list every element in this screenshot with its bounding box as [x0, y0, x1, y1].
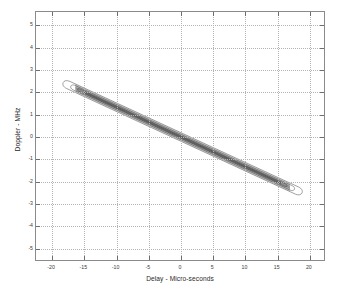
grid-line-vertical: [181, 12, 182, 260]
x-axis-tick-label: -20: [47, 263, 55, 271]
y-axis-tick-mark: [36, 48, 40, 49]
grid-line-vertical: [310, 12, 311, 260]
y-axis-tick-label: 1: [30, 110, 33, 118]
x-axis-tick-label: 5: [211, 263, 214, 271]
ridge-contour-line: [75, 85, 290, 184]
ridge-contour-line: [75, 89, 290, 188]
x-axis-tick-mark: [278, 256, 279, 260]
x-axis-tick-mark: [117, 12, 118, 16]
y-axis-tick-mark: [320, 48, 324, 49]
ridge-contour-line: [75, 84, 290, 183]
grid-line-horizontal: [36, 182, 324, 183]
grid-line-vertical: [117, 12, 118, 260]
grid-line-horizontal: [36, 137, 324, 138]
x-axis-tick-label: -15: [80, 263, 88, 271]
y-axis-tick-label: -5: [28, 244, 33, 252]
x-axis-tick-mark: [310, 12, 311, 16]
y-axis-tick-label: 0: [30, 132, 33, 140]
plot-area: [35, 11, 325, 261]
x-axis-tick-mark: [181, 256, 182, 260]
y-axis-tick-mark: [36, 70, 40, 71]
x-axis-tick-mark: [245, 12, 246, 16]
grid-line-vertical: [52, 12, 53, 260]
y-axis-tick-mark: [320, 92, 324, 93]
x-axis-tick-mark: [213, 256, 214, 260]
y-axis-tick-mark: [36, 182, 40, 183]
y-axis-tick-mark: [320, 159, 324, 160]
y-axis-tick-mark: [320, 182, 324, 183]
y-axis-tick-mark: [320, 25, 324, 26]
grid-line-horizontal: [36, 25, 324, 26]
x-axis-tick-mark: [52, 12, 53, 16]
ridge-contour-line: [75, 91, 290, 190]
grid-line-vertical: [84, 12, 85, 260]
ridge-contour-line: [75, 92, 290, 191]
x-axis-tick-mark: [278, 12, 279, 16]
x-axis-tick-mark: [52, 256, 53, 260]
y-axis-tick-mark: [36, 159, 40, 160]
x-axis-tick-mark: [213, 12, 214, 16]
y-axis-tick-label: -4: [28, 221, 33, 229]
x-axis-tick-label: 15: [274, 263, 280, 271]
y-axis-tick-mark: [36, 92, 40, 93]
x-axis-tick-label: 20: [306, 263, 312, 271]
x-axis-tick-mark: [310, 256, 311, 260]
grid-line-vertical: [213, 12, 214, 260]
y-axis-tick-label: -1: [28, 154, 33, 162]
x-axis-tick-mark: [245, 256, 246, 260]
y-axis-tick-mark: [320, 249, 324, 250]
x-axis-tick-label: -5: [145, 263, 150, 271]
grid-line-horizontal: [36, 48, 324, 49]
y-axis-tick-mark: [36, 115, 40, 116]
x-axis-tick-label: -10: [112, 263, 120, 271]
x-axis-tick-mark: [149, 256, 150, 260]
x-axis-tick-label: 0: [179, 263, 182, 271]
grid-line-horizontal: [36, 159, 324, 160]
ridge-contour-line: [75, 90, 290, 189]
x-axis-tick-labels: -20-15-10-505101520: [35, 263, 325, 273]
y-axis-tick-label: -3: [28, 199, 33, 207]
y-axis-tick-mark: [320, 226, 324, 227]
grid-line-vertical: [278, 12, 279, 260]
grid-line-vertical: [245, 12, 246, 260]
grid-line-horizontal: [36, 226, 324, 227]
y-axis-tick-mark: [36, 204, 40, 205]
y-axis-tick-label: -2: [28, 177, 33, 185]
y-axis-title: Doppler - MHz: [14, 75, 21, 185]
y-axis-tick-mark: [36, 249, 40, 250]
y-axis-tick-mark: [320, 70, 324, 71]
y-axis-tick-mark: [320, 137, 324, 138]
ridge-contour-line: [75, 89, 290, 188]
x-axis-tick-mark: [84, 256, 85, 260]
ridge-contour-line: [75, 86, 290, 185]
x-axis-tick-mark: [149, 12, 150, 16]
grid-line-horizontal: [36, 115, 324, 116]
y-axis-tick-label: 4: [30, 43, 33, 51]
x-axis-tick-mark: [181, 12, 182, 16]
y-axis-tick-label: 5: [30, 20, 33, 28]
y-axis-tick-mark: [36, 25, 40, 26]
x-axis-tick-mark: [84, 12, 85, 16]
grid-line-horizontal: [36, 70, 324, 71]
y-axis-tick-mark: [36, 137, 40, 138]
y-axis-tick-mark: [320, 204, 324, 205]
x-axis-title: Delay - Micro-seconds: [35, 275, 325, 282]
y-axis-tick-label: 3: [30, 65, 33, 73]
y-axis-tick-mark: [320, 115, 324, 116]
x-axis-tick-label: 10: [242, 263, 248, 271]
grid-line-vertical: [149, 12, 150, 260]
figure-canvas: -20-15-10-505101520 -5-4-3-2-1012345 Del…: [0, 0, 357, 298]
grid-line-horizontal: [36, 204, 324, 205]
ridge-contour-line: [75, 91, 290, 190]
y-axis-tick-label: 2: [30, 87, 33, 95]
grid-line-horizontal: [36, 92, 324, 93]
ridge-contour-line: [75, 86, 290, 185]
grid-line-horizontal: [36, 249, 324, 250]
x-axis-tick-mark: [117, 256, 118, 260]
y-axis-tick-mark: [36, 226, 40, 227]
